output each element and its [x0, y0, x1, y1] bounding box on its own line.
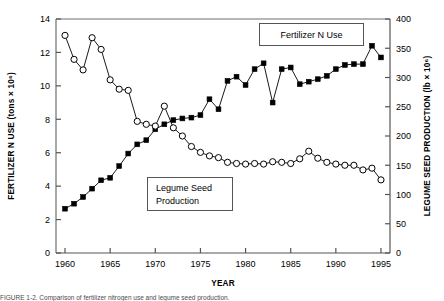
data-point-marker — [261, 61, 266, 66]
data-point-marker — [225, 78, 230, 83]
data-point-marker — [179, 133, 185, 139]
data-point-marker — [279, 159, 285, 165]
svg-text:1995: 1995 — [371, 259, 391, 269]
svg-text:2: 2 — [45, 215, 50, 225]
data-point-marker — [306, 148, 312, 154]
data-point-marker — [306, 79, 311, 84]
data-point-marker — [72, 201, 77, 206]
data-point-marker — [81, 195, 86, 200]
svg-text:1975: 1975 — [190, 259, 210, 269]
plot-frame — [56, 19, 390, 253]
data-point-marker — [143, 121, 149, 127]
data-point-marker — [279, 67, 284, 72]
svg-text:1990: 1990 — [326, 259, 346, 269]
data-point-marker — [90, 186, 95, 191]
data-point-marker — [135, 142, 140, 147]
data-point-marker — [63, 206, 68, 211]
data-point-marker — [144, 138, 149, 143]
data-point-marker — [288, 65, 293, 70]
data-point-marker — [89, 35, 95, 41]
data-point-marker — [379, 55, 384, 60]
svg-text:4: 4 — [45, 181, 50, 191]
data-point-marker — [224, 159, 230, 165]
data-point-marker — [126, 151, 131, 156]
data-point-marker — [125, 87, 131, 93]
annotation-legume-label-line1: Legume Seed — [156, 183, 212, 193]
data-point-marker — [117, 164, 122, 169]
annotation-legume-label-line2: Production — [156, 196, 199, 206]
data-point-marker — [162, 122, 167, 127]
svg-text:1985: 1985 — [281, 259, 301, 269]
data-point-marker — [62, 32, 68, 38]
svg-text:400: 400 — [396, 14, 411, 24]
data-point-marker — [134, 118, 140, 124]
data-point-marker — [152, 123, 158, 129]
data-point-marker — [116, 86, 122, 92]
data-point-marker — [216, 107, 221, 112]
data-point-marker — [261, 161, 267, 167]
data-point-marker — [270, 159, 276, 165]
svg-text:12: 12 — [40, 48, 50, 58]
data-point-marker — [315, 155, 321, 161]
data-point-marker — [288, 160, 294, 166]
data-point-marker — [107, 77, 113, 83]
data-point-marker — [333, 67, 338, 72]
data-point-marker — [297, 82, 302, 87]
svg-text:1970: 1970 — [145, 259, 165, 269]
data-point-marker — [351, 162, 357, 168]
data-point-marker — [234, 74, 239, 79]
data-point-marker — [108, 175, 113, 180]
data-point-marker — [198, 113, 203, 118]
data-point-marker — [171, 118, 176, 123]
data-point-marker — [370, 43, 375, 48]
data-point-marker — [180, 116, 185, 121]
svg-text:1980: 1980 — [236, 259, 256, 269]
annotation-fertilizer: Fertilizer N Use — [260, 24, 364, 46]
svg-text:1960: 1960 — [55, 259, 75, 269]
data-point-marker — [99, 178, 104, 183]
y-axis-left-title: FERTILIZER N USE (tons × 10⁶) — [7, 72, 16, 200]
data-point-marker — [378, 177, 384, 183]
data-point-marker — [188, 143, 194, 149]
figure-caption: FIGURE 1-2. Comparison of fertilizer nit… — [0, 294, 444, 301]
y-axis-right-title: LEGUME SEED PRODUCTION (lb × 10⁶) — [423, 56, 432, 217]
data-point-marker — [342, 63, 347, 68]
data-point-marker — [215, 155, 221, 161]
data-point-marker — [324, 159, 330, 165]
annotation-fertilizer-label: Fertilizer N Use — [280, 30, 342, 40]
chart-canvas: 02468101214 050100150200250300350400 196… — [0, 0, 444, 301]
annotation-legume: Legume Seed Production — [148, 178, 233, 211]
data-point-marker — [315, 77, 320, 82]
data-point-marker — [369, 165, 375, 171]
figure-container: 02468101214 050100150200250300350400 196… — [0, 0, 444, 301]
data-point-marker — [297, 156, 303, 162]
data-point-marker — [161, 103, 167, 109]
data-point-marker — [360, 167, 366, 173]
svg-text:100: 100 — [396, 190, 411, 200]
x-axis-title: YEAR — [211, 279, 235, 288]
data-point-marker — [342, 162, 348, 168]
data-point-marker — [251, 160, 257, 166]
data-point-marker — [170, 125, 176, 131]
svg-text:350: 350 — [396, 44, 411, 54]
svg-text:0: 0 — [396, 248, 401, 258]
svg-text:8: 8 — [45, 115, 50, 125]
data-point-marker — [324, 73, 329, 78]
svg-text:1965: 1965 — [100, 259, 120, 269]
data-point-marker — [80, 67, 86, 73]
svg-text:0: 0 — [45, 248, 50, 258]
data-point-marker — [333, 161, 339, 167]
svg-text:14: 14 — [40, 14, 50, 24]
data-point-marker — [361, 62, 366, 67]
svg-text:50: 50 — [396, 219, 406, 229]
data-point-marker — [243, 83, 248, 88]
data-point-marker — [351, 62, 356, 67]
data-point-marker — [71, 56, 77, 62]
svg-text:200: 200 — [396, 131, 411, 141]
data-point-marker — [206, 153, 212, 159]
data-point-marker — [233, 160, 239, 166]
data-point-marker — [242, 161, 248, 167]
data-point-marker — [197, 149, 203, 155]
data-point-marker — [252, 67, 257, 72]
data-point-marker — [207, 97, 212, 102]
